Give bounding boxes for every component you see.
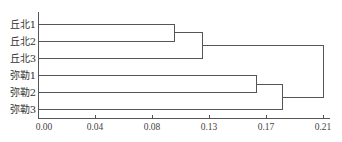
- branch-mile-12-3: [38, 84, 282, 109]
- leaf-label: 丘北3: [10, 53, 36, 64]
- branch-qiubei-1-2: [38, 24, 174, 41]
- tick-label: 0.13: [201, 122, 218, 132]
- leaf-label: 丘北1: [10, 19, 36, 30]
- branch-mile-1-2: [38, 75, 256, 92]
- dendrogram-chart: 0.00 0.04 0.08 0.13 0.17 0.21 丘北1 丘北2 丘北…: [0, 0, 342, 142]
- leaf-label: 弥勒3: [10, 103, 36, 115]
- tick-label: 0.08: [144, 122, 161, 132]
- branch-qiubei-12-3: [38, 32, 202, 58]
- x-tick-labels: 0.00 0.04 0.08 0.13 0.17 0.21: [36, 122, 332, 132]
- tick-label: 0.17: [258, 122, 275, 132]
- tick-label: 0.04: [87, 122, 104, 132]
- branch-root: [202, 45, 323, 97]
- leaf-label: 弥勒1: [10, 69, 36, 81]
- leaf-label: 丘北2: [10, 36, 36, 47]
- leaf-label: 弥勒2: [10, 86, 36, 98]
- dendrogram-branches: [38, 24, 323, 109]
- tick-label: 0.00: [36, 122, 53, 132]
- tick-label: 0.21: [315, 122, 332, 132]
- leaf-labels: 丘北1 丘北2 丘北3 弥勒1 弥勒2 弥勒3: [10, 19, 36, 115]
